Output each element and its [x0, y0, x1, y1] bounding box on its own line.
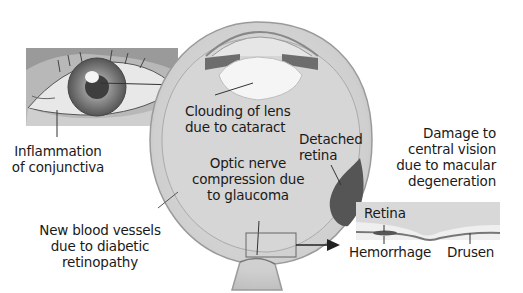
label-inset-retina: Retina — [364, 205, 406, 221]
label-inset-hemorrhage: Hemorrhage — [349, 244, 431, 260]
label-line: due to macular — [380, 157, 496, 173]
label-diabetic-retinopathy: New blood vessels due to diabetic retino… — [38, 222, 162, 270]
label-line: retina — [299, 147, 363, 163]
label-inflammation: Inflammation of conjunctiva — [2, 143, 114, 175]
label-line: due to diabetic — [38, 238, 162, 254]
label-line: due to cataract — [185, 119, 290, 135]
label-cataract: Clouding of lens due to cataract — [185, 103, 290, 135]
label-macular-degeneration: Damage to central vision due to macular … — [380, 125, 496, 189]
label-glaucoma: Optic nerve compression due to glaucoma — [192, 155, 304, 203]
label-line: Inflammation — [2, 143, 114, 159]
label-line: Detached — [299, 131, 363, 147]
label-line: compression due — [192, 171, 304, 187]
label-line: retinopathy — [38, 254, 162, 270]
label-line: Clouding of lens — [185, 103, 290, 119]
label-detached-retina: Detached retina — [299, 131, 363, 163]
label-line: degeneration — [380, 173, 496, 189]
arrow-right-icon — [327, 239, 340, 251]
label-line: Damage to — [380, 125, 496, 141]
label-line: of conjunctiva — [2, 159, 114, 175]
label-line: to glaucoma — [192, 187, 304, 203]
label-line: central vision — [380, 141, 496, 157]
label-line: New blood vessels — [38, 222, 162, 238]
label-line: Optic nerve — [192, 155, 304, 171]
label-inset-drusen: Drusen — [447, 244, 494, 260]
